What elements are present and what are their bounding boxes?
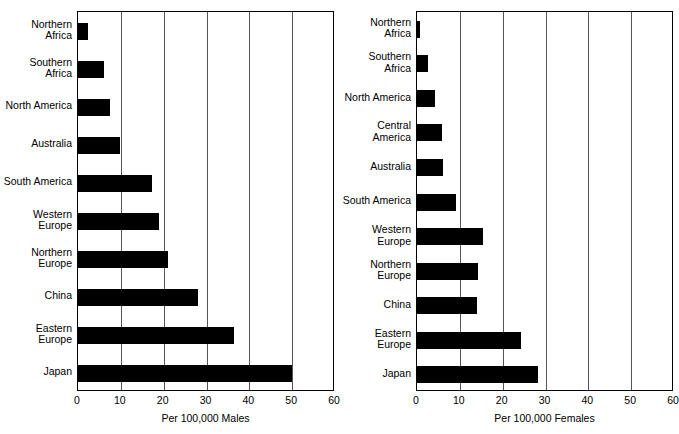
bar xyxy=(78,175,152,192)
category-label: North America xyxy=(0,100,72,112)
category-label: South America xyxy=(339,195,411,207)
x-tick-label: 50 xyxy=(624,394,636,407)
x-tick-label: 20 xyxy=(157,394,169,407)
x-tick-label: 10 xyxy=(453,394,465,407)
category-label: Japan xyxy=(0,366,72,378)
category-axis-labels-females: Northern AfricaSouthern AfricaNorth Amer… xyxy=(339,11,411,391)
bar xyxy=(78,213,159,230)
x-tick-label: 20 xyxy=(496,394,508,407)
x-tick-labels-females: 0102030405060 xyxy=(416,394,673,410)
bar xyxy=(417,297,477,314)
chart-panel-females: Northern AfricaSouthern AfricaNorth Amer… xyxy=(339,0,678,434)
category-label: Southern Africa xyxy=(339,51,411,74)
category-label: Australia xyxy=(339,161,411,173)
category-label: Eastern Europe xyxy=(339,328,411,351)
bar xyxy=(417,21,420,38)
category-label: Northern Europe xyxy=(339,259,411,282)
x-tick-label: 50 xyxy=(285,394,297,407)
category-axis-labels-males: Northern AfricaSouthern AfricaNorth Amer… xyxy=(0,11,72,391)
bar xyxy=(417,159,443,176)
category-label: Northern Europe xyxy=(0,247,72,270)
x-tick-labels-males: 0102030405060 xyxy=(77,394,334,410)
bar xyxy=(417,55,428,72)
x-tick-label: 60 xyxy=(667,394,679,407)
category-label: Australia xyxy=(0,138,72,150)
x-tick-label: 40 xyxy=(581,394,593,407)
bar xyxy=(417,228,483,245)
bar xyxy=(78,137,120,154)
bar xyxy=(417,332,521,349)
bar xyxy=(78,365,292,382)
bar xyxy=(417,263,478,280)
category-label: Western Europe xyxy=(0,209,72,232)
category-label: Japan xyxy=(339,368,411,380)
bar xyxy=(78,327,234,344)
bars-males xyxy=(78,12,333,390)
x-tick-label: 30 xyxy=(200,394,212,407)
x-axis-title-males: Per 100,000 Males xyxy=(77,412,334,424)
bar xyxy=(417,90,435,107)
category-label: South America xyxy=(0,176,72,188)
x-tick-label: 0 xyxy=(413,394,419,407)
x-tick-label: 10 xyxy=(114,394,126,407)
category-label: Southern Africa xyxy=(0,57,72,80)
x-axis-title-females: Per 100,000 Females xyxy=(416,412,673,424)
chart-panel-males: Northern AfricaSouthern AfricaNorth Amer… xyxy=(0,0,339,434)
bar xyxy=(78,61,104,78)
bar xyxy=(417,366,538,383)
category-label: Northern Africa xyxy=(339,17,411,40)
category-label: Western Europe xyxy=(339,224,411,247)
bar xyxy=(78,251,168,268)
bars-females xyxy=(417,12,672,390)
bar xyxy=(78,289,198,306)
bar xyxy=(417,194,456,211)
bar xyxy=(417,124,442,141)
plot-area-females xyxy=(416,11,673,391)
x-tick-label: 0 xyxy=(74,394,80,407)
category-label: Central America xyxy=(339,120,411,143)
category-label: China xyxy=(0,290,72,302)
bar xyxy=(78,99,110,116)
x-tick-label: 40 xyxy=(242,394,254,407)
category-label: Eastern Europe xyxy=(0,323,72,346)
bar xyxy=(78,23,88,40)
category-label: China xyxy=(339,299,411,311)
category-label: North America xyxy=(339,92,411,104)
plot-area-males xyxy=(77,11,334,391)
category-label: Northern Africa xyxy=(0,19,72,42)
x-tick-label: 30 xyxy=(539,394,551,407)
